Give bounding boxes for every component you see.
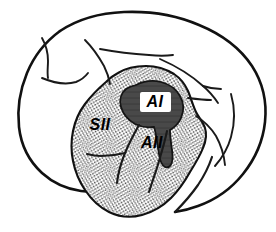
AII-label-text: AII <box>140 134 163 151</box>
label-AII: AII <box>140 134 163 151</box>
brain-diagram-figure: AI AII SII <box>0 0 276 232</box>
label-SII: SII <box>89 116 110 133</box>
sulcus-central <box>85 40 110 84</box>
brain-lateral-view-svg: AI AII SII <box>0 0 276 232</box>
SII-label-text: SII <box>89 116 110 133</box>
sulcus-suprasylvian <box>100 49 173 56</box>
label-AI: AI <box>140 92 171 112</box>
AI-label-text: AI <box>146 93 164 110</box>
sulcus-occipital <box>215 94 234 166</box>
